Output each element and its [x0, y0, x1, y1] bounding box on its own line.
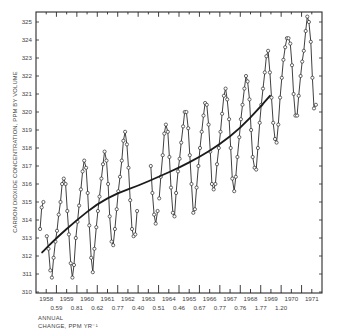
data-point [50, 276, 53, 279]
data-point [304, 29, 307, 32]
data-point [169, 186, 172, 189]
x-tick-label: 1967 [223, 295, 237, 302]
data-point [221, 112, 224, 115]
monthly-line [52, 132, 137, 278]
data-point [182, 125, 185, 128]
annual-change-value: 1.77 [255, 304, 268, 311]
data-point [78, 204, 81, 207]
x-tick-label: 1964 [162, 295, 176, 302]
data-point [277, 123, 280, 126]
data-point [149, 164, 152, 167]
data-point [175, 191, 178, 194]
data-point [136, 209, 139, 212]
annual-change-value: 0.51 [153, 304, 166, 311]
data-point [222, 94, 225, 97]
data-point [267, 49, 270, 52]
data-point [55, 229, 58, 232]
y-tick-label: 312 [22, 252, 33, 259]
data-point [178, 157, 181, 160]
data-point [255, 168, 258, 171]
x-tick-label: 1970 [284, 295, 298, 302]
data-point [156, 209, 159, 212]
data-point [307, 20, 310, 23]
data-point [265, 55, 268, 58]
data-point [256, 146, 259, 149]
data-point [176, 170, 179, 173]
data-point [302, 49, 305, 52]
data-point [173, 215, 176, 218]
data-point [280, 76, 283, 79]
data-point [273, 137, 276, 140]
data-point [297, 94, 300, 97]
x-tick-label: 1958 [39, 295, 53, 302]
data-point [120, 159, 123, 162]
data-point [226, 98, 229, 101]
data-point [125, 143, 128, 146]
y-tick-label: 313 [22, 234, 33, 241]
data-point [39, 227, 42, 230]
data-point [187, 127, 190, 130]
annual-change-row: 0.590.810.620.770.400.510.460.670.770.76… [50, 304, 287, 311]
y-tick-label: 318 [22, 144, 33, 151]
annual-change-title: ANNUAL [38, 315, 63, 321]
data-point [171, 211, 174, 214]
data-point [243, 87, 246, 90]
co2-chart: 3103113123133143153163173183193203213223… [0, 0, 337, 336]
data-point [64, 182, 67, 185]
data-point [296, 114, 299, 117]
data-point [229, 146, 232, 149]
data-point [83, 159, 86, 162]
data-point [268, 71, 271, 74]
data-point [161, 154, 164, 157]
data-point [62, 177, 65, 180]
x-tick-label: 1968 [244, 295, 258, 302]
y-tick-label: 310 [22, 288, 33, 295]
data-point [154, 222, 157, 225]
annual-change-value: 0.76 [234, 304, 247, 311]
data-point [202, 114, 205, 117]
data-point [193, 208, 196, 211]
data-point [129, 199, 132, 202]
data-point [118, 175, 121, 178]
data-point [98, 195, 101, 198]
data-point [248, 98, 251, 101]
data-point [103, 150, 106, 153]
data-point [88, 224, 91, 227]
data-point [214, 182, 217, 185]
y-tick-label: 321 [22, 90, 33, 97]
data-point [261, 87, 264, 90]
data-point [79, 188, 82, 191]
y-tick-label: 317 [22, 162, 33, 169]
data-point [101, 163, 104, 166]
data-point [45, 235, 48, 238]
annual-change-value: 0.77 [214, 304, 227, 311]
data-point [309, 40, 312, 43]
data-point [272, 121, 275, 124]
data-point [282, 58, 285, 61]
data-point [306, 15, 309, 18]
annual-change-value: 0.59 [50, 304, 63, 311]
data-point [228, 118, 231, 121]
data-point [200, 130, 203, 133]
data-point [275, 141, 278, 144]
data-point [205, 103, 208, 106]
data-point [246, 80, 249, 83]
data-point [130, 227, 133, 230]
y-tick-label: 325 [22, 18, 33, 25]
data-point [251, 155, 254, 158]
data-point [153, 213, 156, 216]
plot-border [36, 12, 322, 293]
data-point [90, 256, 93, 259]
data-point [299, 74, 302, 77]
data-point [192, 211, 195, 214]
data-point [74, 236, 77, 239]
data-point [127, 166, 130, 169]
annual-change-value: 0.67 [193, 304, 206, 311]
data-point [163, 132, 166, 135]
data-point [250, 128, 253, 131]
annual-change-value: 1.20 [275, 304, 288, 311]
data-point [236, 155, 239, 158]
data-point [195, 186, 198, 189]
data-point [244, 74, 247, 77]
annual-change-units: CHANGE, PPM YR⁻¹ [38, 323, 98, 329]
